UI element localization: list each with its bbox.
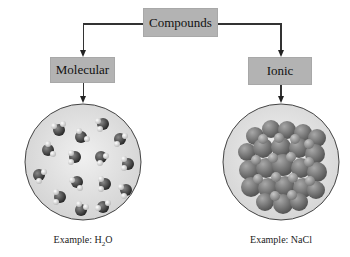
water-molecules-illustration (23, 102, 143, 222)
molecular-example-caption: Example: H2O (23, 234, 143, 248)
compounds-box: Compounds (143, 8, 218, 37)
ionic-label: Ionic (267, 63, 294, 79)
connector-root-right-h (217, 23, 281, 25)
connector-root-left-v (83, 23, 85, 51)
molecular-box: Molecular (50, 57, 115, 83)
molecular-label: Molecular (56, 62, 109, 78)
sodium-chloride-lattice-illustration (221, 102, 341, 222)
arrow-to-molecular (80, 50, 86, 57)
connector-root-left-h (83, 23, 144, 25)
arrow-to-ionic (278, 50, 284, 57)
compounds-label: Compounds (149, 15, 212, 31)
ionic-example-caption: Example: NaCl (221, 234, 341, 245)
connector-root-right-v (280, 23, 282, 51)
ionic-box: Ionic (248, 57, 312, 85)
